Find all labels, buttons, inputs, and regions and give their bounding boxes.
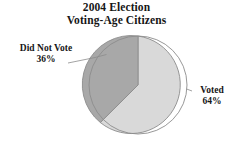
slice-label-did-not-vote-percent: 36% bbox=[10, 54, 82, 65]
slice-label-voted-name: Voted bbox=[200, 85, 223, 95]
pie-chart-graphic bbox=[0, 0, 233, 145]
slice-label-voted: Voted 64% bbox=[192, 85, 232, 106]
slice-label-did-not-vote-name: Did Not Vote bbox=[20, 43, 72, 53]
slice-label-did-not-vote: Did Not Vote 36% bbox=[10, 43, 82, 64]
slice-label-voted-percent: 64% bbox=[192, 96, 232, 107]
pie-chart-figure: 2004 Election Voting-Age Citizens Did No… bbox=[0, 0, 233, 145]
